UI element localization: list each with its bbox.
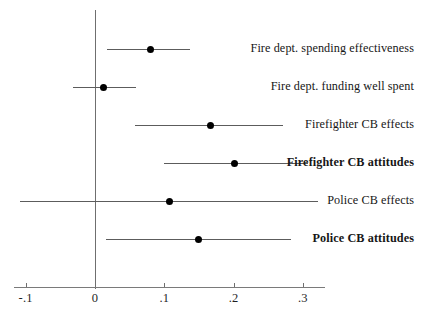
estimate-label: Fire dept. funding well spent: [271, 79, 414, 94]
estimate-label: Fire dept. spending effectiveness: [251, 41, 415, 56]
zero-reference-line: [95, 10, 96, 289]
point-estimate-marker: [147, 46, 154, 53]
point-estimate-marker: [231, 160, 238, 167]
x-tick-mark: [95, 283, 96, 287]
x-tick-mark: [164, 283, 165, 287]
coefficient-plot: -.10.1.2.3 Fire dept. spending effective…: [0, 0, 421, 317]
x-tick-mark: [26, 283, 27, 287]
point-estimate-marker: [166, 198, 173, 205]
estimate-label: Police CB attitudes: [313, 231, 414, 246]
estimate-label: Police CB effects: [327, 193, 414, 208]
x-tick-label: .2: [214, 292, 254, 305]
x-tick-mark: [303, 283, 304, 287]
estimate-label: Firefighter CB effects: [305, 117, 414, 132]
x-axis-line: [14, 287, 325, 288]
x-tick-label: 0: [75, 292, 115, 305]
estimate-label: Firefighter CB attitudes: [287, 155, 414, 170]
plot-area: -.10.1.2.3 Fire dept. spending effective…: [0, 0, 421, 317]
x-tick-label: .1: [144, 292, 184, 305]
point-estimate-marker: [100, 84, 107, 91]
x-tick-label: -.1: [6, 292, 46, 305]
point-estimate-marker: [207, 122, 214, 129]
x-tick-label: .3: [283, 292, 323, 305]
point-estimate-marker: [195, 236, 202, 243]
x-tick-mark: [234, 283, 235, 287]
